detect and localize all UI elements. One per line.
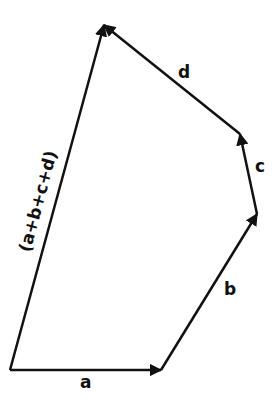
vector-b [161, 214, 257, 370]
vector-diagram: a b c d (a+b+c+d) [0, 0, 278, 407]
vector-resultant [10, 25, 104, 370]
label-b: b [224, 279, 236, 299]
label-d: d [178, 62, 190, 82]
label-c: c [255, 156, 265, 176]
label-resultant: (a+b+c+d) [15, 148, 61, 254]
label-a: a [80, 372, 91, 392]
vector-d [104, 25, 240, 134]
